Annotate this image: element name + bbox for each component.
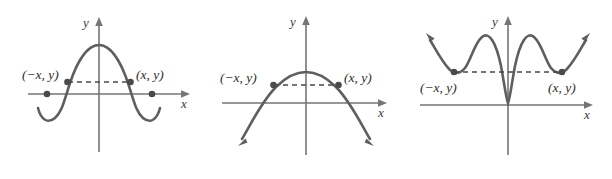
label-x-axis: x (180, 96, 187, 111)
x-axis (222, 99, 387, 107)
point-left-symmetric (64, 79, 71, 86)
label-right-point: (x, y) (344, 70, 372, 85)
panel-even-quartic: (−x, y) (x, y) y x (0, 0, 204, 179)
panel-downward-parabola: (−x, y) (x, y) y x (204, 0, 408, 179)
label-right-point: (x, y) (548, 80, 576, 95)
point-right-x-intercept (149, 91, 156, 98)
y-axis (95, 17, 103, 152)
label-x-axis: x (583, 107, 590, 122)
figure-root: (−x, y) (x, y) y x (0, 0, 612, 179)
x-axis (28, 90, 190, 98)
label-y-axis: y (288, 14, 296, 29)
point-left-x-intercept (44, 91, 51, 98)
arrowhead-right-end (582, 33, 591, 42)
panel-even-oscillating: (−x, y) (x, y) y x (408, 0, 612, 179)
point-left-symmetric (451, 69, 458, 76)
label-left-point: (−x, y) (420, 80, 457, 95)
label-y-axis: y (81, 15, 89, 30)
point-right-symmetric (559, 69, 566, 76)
label-left-point: (−x, y) (22, 67, 59, 82)
label-left-point: (−x, y) (220, 70, 257, 85)
point-right-symmetric (335, 82, 342, 89)
label-x-axis: x (377, 105, 384, 120)
label-y-axis: y (490, 14, 498, 29)
label-right-point: (x, y) (136, 67, 164, 82)
arrowhead-left-end (426, 33, 435, 42)
point-left-symmetric (270, 82, 277, 89)
point-right-symmetric (127, 79, 134, 86)
